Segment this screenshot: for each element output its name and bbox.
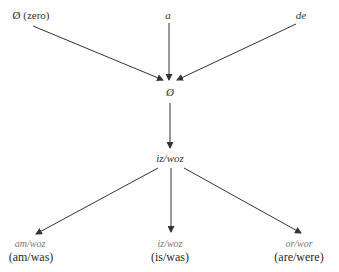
node-de: de [296,9,306,22]
node-is-gloss: (is/was) [151,251,189,264]
node-a: a [165,9,171,22]
edge-de-to-null [177,24,296,80]
node-am-gloss: (am/was) [9,251,54,264]
node-am-form: am/woz [15,237,46,250]
edge-izwoz-to-am [36,168,158,234]
node-null: Ø [166,86,174,99]
diagram-edges [0,0,339,272]
node-is-form: iz/woz [157,237,182,250]
edge-zero-to-null [33,26,163,80]
node-iz-woz: iz/woz [156,152,184,165]
node-are-gloss: (are/were) [274,251,323,264]
edge-izwoz-to-are [184,168,301,233]
node-zero: Ø (zero) [13,9,50,22]
node-are-form: or/wor [285,237,312,250]
